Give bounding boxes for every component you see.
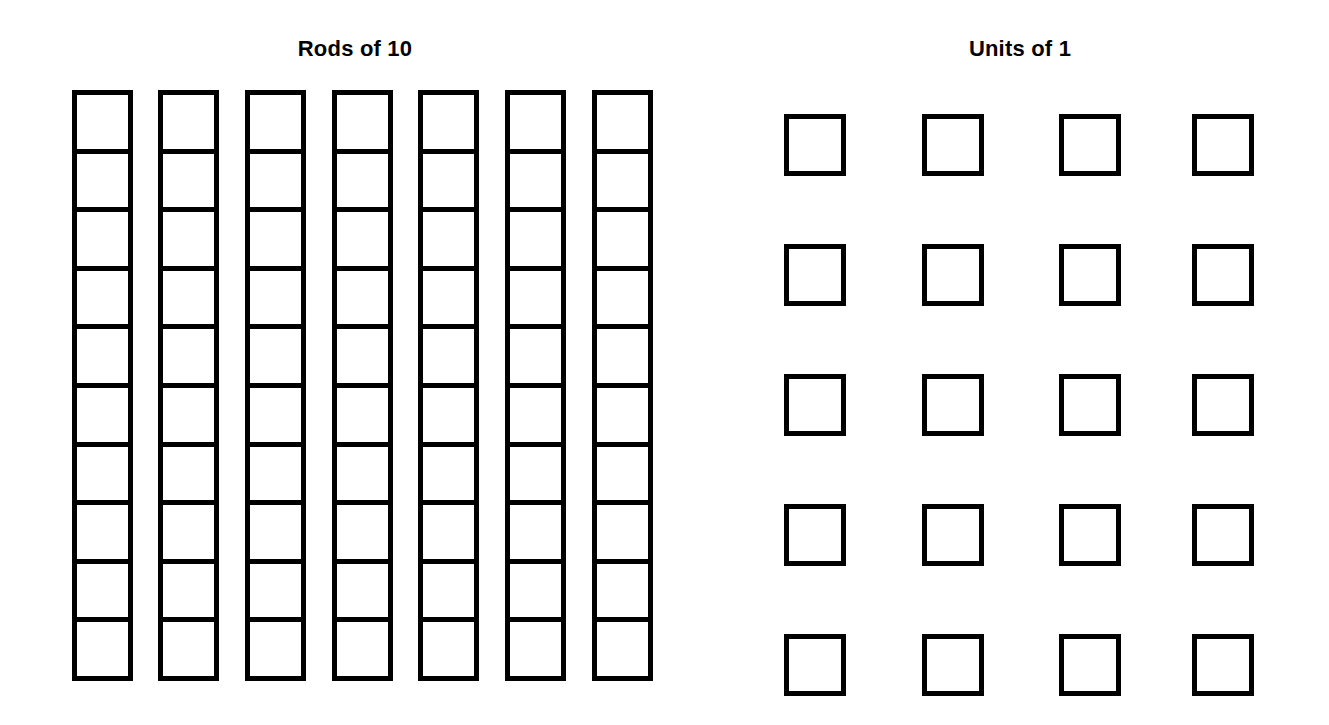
unit-square xyxy=(1192,634,1254,696)
rod-cell xyxy=(250,622,301,676)
rod-cell xyxy=(77,271,128,330)
rod-cell xyxy=(337,505,388,564)
rod-cell xyxy=(163,388,214,447)
rod-cell xyxy=(250,212,301,271)
rod-cell xyxy=(337,329,388,388)
rod-cell xyxy=(510,564,561,623)
unit-square xyxy=(784,244,846,306)
rod-cell xyxy=(510,447,561,506)
rod-cell xyxy=(163,329,214,388)
rod-cell xyxy=(77,564,128,623)
unit-square xyxy=(922,114,984,176)
rod-of-ten xyxy=(72,90,133,681)
rod-cell xyxy=(510,505,561,564)
rod-cell xyxy=(250,564,301,623)
unit-square xyxy=(922,634,984,696)
rod-cell xyxy=(510,622,561,676)
unit-square xyxy=(1059,374,1121,436)
rod-cell xyxy=(597,622,648,676)
rod-cell xyxy=(597,388,648,447)
unit-square xyxy=(1192,114,1254,176)
rod-cell xyxy=(337,447,388,506)
rod-of-ten xyxy=(592,90,653,681)
rod-cell xyxy=(77,95,128,154)
rod-cell xyxy=(77,622,128,676)
rod-cell xyxy=(163,505,214,564)
rod-cell xyxy=(597,564,648,623)
rod-cell xyxy=(337,154,388,213)
rod-cell xyxy=(250,329,301,388)
unit-square xyxy=(784,114,846,176)
rod-cell xyxy=(250,95,301,154)
rod-cell xyxy=(77,154,128,213)
rod-cell xyxy=(163,212,214,271)
rod-cell xyxy=(423,154,474,213)
rod-cell xyxy=(423,329,474,388)
rod-cell xyxy=(250,388,301,447)
rod-cell xyxy=(337,622,388,676)
rod-of-ten xyxy=(332,90,393,681)
rod-cell xyxy=(77,212,128,271)
unit-square xyxy=(1192,374,1254,436)
unit-square xyxy=(922,504,984,566)
rod-cell xyxy=(77,329,128,388)
unit-square xyxy=(1192,244,1254,306)
rod-cell xyxy=(597,154,648,213)
unit-square xyxy=(1059,504,1121,566)
rod-cell xyxy=(163,622,214,676)
rod-cell xyxy=(510,212,561,271)
rod-of-ten xyxy=(158,90,219,681)
rod-cell xyxy=(423,212,474,271)
unit-square xyxy=(1059,114,1121,176)
unit-square xyxy=(1059,244,1121,306)
rod-cell xyxy=(163,271,214,330)
rod-cell xyxy=(597,212,648,271)
rod-cell xyxy=(337,95,388,154)
rod-cell xyxy=(163,564,214,623)
rod-cell xyxy=(163,447,214,506)
rod-cell xyxy=(423,447,474,506)
base-ten-blocks-canvas: Rods of 10 Units of 1 xyxy=(0,0,1329,725)
unit-square xyxy=(784,504,846,566)
unit-square xyxy=(1059,634,1121,696)
rod-cell xyxy=(77,447,128,506)
rod-cell xyxy=(337,271,388,330)
rod-cell xyxy=(510,95,561,154)
rod-cell xyxy=(597,329,648,388)
rod-cell xyxy=(250,505,301,564)
rod-cell xyxy=(510,329,561,388)
rod-of-ten xyxy=(505,90,566,681)
rod-cell xyxy=(597,447,648,506)
rod-cell xyxy=(423,505,474,564)
unit-square xyxy=(784,634,846,696)
rod-cell xyxy=(510,388,561,447)
rod-cell xyxy=(77,388,128,447)
rod-cell xyxy=(423,622,474,676)
rod-cell xyxy=(423,95,474,154)
units-section-title: Units of 1 xyxy=(969,38,1071,60)
unit-square xyxy=(922,244,984,306)
unit-square xyxy=(922,374,984,436)
rod-cell xyxy=(163,95,214,154)
rod-of-ten xyxy=(245,90,306,681)
rod-cell xyxy=(337,212,388,271)
rod-cell xyxy=(597,505,648,564)
rod-cell xyxy=(250,154,301,213)
rod-cell xyxy=(250,447,301,506)
rods-section-title: Rods of 10 xyxy=(298,38,412,60)
rod-cell xyxy=(250,271,301,330)
rod-cell xyxy=(163,154,214,213)
rod-cell xyxy=(597,95,648,154)
rod-cell xyxy=(337,388,388,447)
rod-cell xyxy=(597,271,648,330)
rod-cell xyxy=(337,564,388,623)
rod-cell xyxy=(423,388,474,447)
rod-of-ten xyxy=(418,90,479,681)
rod-cell xyxy=(423,564,474,623)
unit-square xyxy=(1192,504,1254,566)
unit-square xyxy=(784,374,846,436)
rod-cell xyxy=(77,505,128,564)
rod-cell xyxy=(510,271,561,330)
rod-cell xyxy=(423,271,474,330)
rod-cell xyxy=(510,154,561,213)
